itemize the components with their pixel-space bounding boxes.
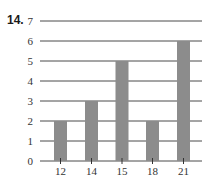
bar-12 [54, 121, 67, 161]
y-tick-label: 0 [28, 155, 34, 167]
x-tick-label: 18 [147, 165, 159, 177]
x-tick-label: 14 [86, 165, 98, 177]
y-tick-label: 7 [28, 15, 34, 27]
x-tick-label: 21 [178, 165, 189, 177]
bar-14 [85, 101, 98, 161]
bar-21 [177, 41, 190, 161]
y-tick-label: 3 [28, 95, 34, 107]
bar-chart: 012345671214151821 [0, 0, 215, 191]
bar-18 [146, 121, 159, 161]
y-tick-label: 1 [28, 135, 34, 147]
bar-15 [116, 61, 129, 161]
y-tick-label: 4 [28, 75, 34, 87]
x-tick-label: 12 [55, 165, 66, 177]
y-tick-label: 6 [28, 35, 34, 47]
x-tick-label: 15 [117, 165, 129, 177]
y-tick-label: 2 [28, 115, 34, 127]
y-tick-label: 5 [28, 55, 34, 67]
